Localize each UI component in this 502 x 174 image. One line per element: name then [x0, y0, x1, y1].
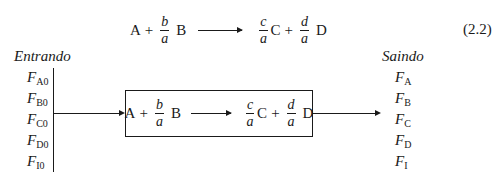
- outlet-stream-b: FB: [395, 88, 411, 109]
- coefficient-b-over-a: b a: [160, 15, 169, 46]
- outlet-stream-a: FA: [395, 67, 411, 88]
- equation-number: (2.2): [463, 21, 492, 38]
- inlet-stream-c0: FC0: [27, 109, 48, 130]
- reactor-equation: A + b a B c a C + d a D: [125, 98, 314, 129]
- inlet-stream-d0: FD0: [27, 130, 48, 151]
- product-d: D: [316, 22, 327, 39]
- inlet-stream-b0: FB0: [27, 88, 48, 109]
- reactor-box: A + b a B c a C + d a D: [125, 90, 313, 137]
- coefficient-d-over-a: d a: [300, 15, 309, 46]
- plus-sign: +: [145, 22, 153, 39]
- inlet-stream-i0: FI0: [27, 151, 48, 172]
- plus-sign: +: [285, 22, 293, 39]
- coefficient-c-over-a: c a: [259, 15, 267, 46]
- outlet-arrow-line: [313, 113, 376, 114]
- product-c: C: [271, 22, 281, 39]
- outlet-stream-d: FD: [395, 130, 411, 151]
- reaction-equation: A + b a B c a C + d a D: [130, 12, 327, 48]
- outlet-stream-c: FC: [395, 109, 411, 130]
- inlet-stream-a0: FA0: [27, 67, 48, 88]
- inlet-stream-list: FA0 FB0 FC0 FD0 FI0: [27, 67, 48, 172]
- reactor-arrow-icon: [191, 113, 231, 114]
- outlet-stream-list: FA FB FC FD FI: [395, 67, 411, 172]
- outlet-stream-i: FI: [395, 151, 411, 172]
- outlet-arrowhead-icon: [375, 110, 381, 116]
- inlet-bracket-line: [53, 68, 54, 172]
- inlet-heading: Entrando: [14, 48, 71, 65]
- reactant-a: A: [130, 22, 141, 39]
- reaction-arrow-icon: [198, 30, 242, 31]
- inlet-arrow-line: [53, 113, 120, 114]
- outlet-heading: Saindo: [382, 48, 424, 65]
- reactant-b: B: [176, 22, 186, 39]
